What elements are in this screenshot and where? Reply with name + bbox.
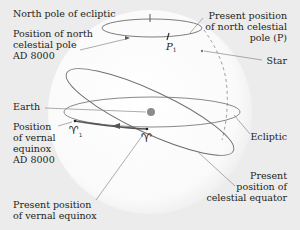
label-earth: Earth bbox=[13, 101, 40, 112]
line-3: celestial equator bbox=[206, 192, 287, 203]
line-1: Present bbox=[206, 170, 287, 181]
label-vernal-8000: Position of vernal equinox AD 8000 bbox=[13, 121, 56, 165]
label-north-celestial-8000: Position of north celestial pole AD 8000 bbox=[13, 28, 93, 61]
label-present-equator: Present position of celestial equator bbox=[206, 170, 287, 203]
earth-icon bbox=[147, 108, 155, 116]
label-present-vernal: Present position of vernal equinox bbox=[13, 199, 97, 221]
star-point bbox=[201, 50, 203, 52]
line-3: AD 8000 bbox=[13, 50, 93, 61]
line-2: of north celestial bbox=[205, 21, 287, 32]
line-2: of vernal equinox bbox=[13, 210, 97, 221]
line-2: of vernal bbox=[13, 132, 56, 143]
line-1: Present position bbox=[205, 10, 287, 21]
line-2: celestial pole bbox=[13, 39, 93, 50]
line-2: position of bbox=[206, 181, 287, 192]
label-star: Star bbox=[266, 55, 287, 66]
vernal-equinox-point bbox=[146, 128, 149, 131]
aries-symbol: ♈ bbox=[141, 131, 152, 145]
line-1: Position bbox=[13, 121, 56, 132]
vernal-equinox-8000-point bbox=[74, 120, 77, 123]
line-1: Present position bbox=[13, 199, 97, 210]
line-3: pole (P) bbox=[205, 32, 287, 43]
line-1: Position of north bbox=[13, 28, 93, 39]
line-4: AD 8000 bbox=[13, 154, 56, 165]
label-north-pole-ecliptic: North pole of ecliptic bbox=[13, 8, 116, 19]
label-present-north-pole: Present position of north celestial pole… bbox=[205, 10, 287, 43]
line-3: equinox bbox=[13, 143, 56, 154]
label-ecliptic: Ecliptic bbox=[250, 131, 287, 142]
